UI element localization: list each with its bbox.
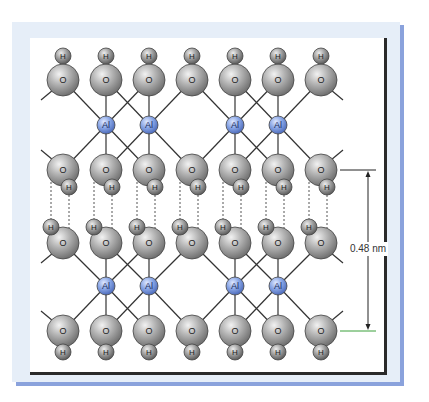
oxygen-atom-label: O [231,238,238,248]
hydrogen-atom-label: H [189,348,195,357]
oxygen-atom-label: O [102,238,109,248]
bond-line [331,150,343,160]
hydrogen-atom-label: H [109,183,115,192]
oxygen-atom: O [219,64,251,96]
oxygen-atom-label: O [231,326,238,336]
oxygen-atom: O [133,64,165,96]
hydrogen-atom: H [172,219,188,235]
hydrogen-atom: H [233,179,249,195]
hydrogen-atom: H [184,48,200,64]
bond-line [331,90,343,100]
hydrogen-atom: H [104,179,120,195]
aluminum-atom: Al [97,116,115,134]
oxygen-atom-label: O [145,75,152,85]
oxygen-atom-label: O [274,326,281,336]
hydrogen-atom: H [276,179,292,195]
arrow-up-icon [366,171,371,177]
hydrogen-atom-label: H [103,348,109,357]
oxygen-atom-label: O [102,326,109,336]
oxygen-atom-label: O [59,75,66,85]
oxygen-atom-label: O [102,165,109,175]
hydrogen-atom: H [141,48,157,64]
oxygen-atom-label: O [274,165,281,175]
hydrogen-atom: H [270,48,286,64]
hydrogen-atom-label: H [134,223,140,232]
hydrogen-atom-label: H [103,52,109,61]
hydrogen-atom: H [55,48,71,64]
hydrogen-atom: H [61,179,77,195]
aluminum-atom: Al [226,116,244,134]
hydrogen-atom-label: H [152,183,158,192]
oxygen-atom-label: O [188,165,195,175]
oxygen-atom: O [262,64,294,96]
hydrogen-atom: H [313,344,329,360]
oxygen-atom: O [90,64,122,96]
oxygen-atom: O [176,64,208,96]
aluminum-atom-label: Al [274,281,282,291]
oxygen-atom-label: O [59,326,66,336]
hydrogen-atom-label: H [324,183,330,192]
oxygen-atom-label: O [59,165,66,175]
hydrogen-atom: H [43,219,59,235]
hydrogen-atom: H [98,344,114,360]
hydrogen-atom-label: H [60,52,66,61]
oxygen-atom-label: O [188,75,195,85]
oxygen-atom-label: O [145,165,152,175]
oxygen-atom-label: O [145,326,152,336]
bond-line [41,311,53,321]
oxygen-atom-label: O [317,75,324,85]
oxygen-atom: O [90,315,122,347]
oxygen-atom-label: O [188,326,195,336]
aluminum-atom: Al [140,277,158,295]
oxygen-atom-label: O [231,165,238,175]
aluminum-atom-label: Al [231,120,239,130]
hydrogen-atom: H [258,219,274,235]
aluminum-atom: Al [269,277,287,295]
hydrogen-atom: H [141,344,157,360]
aluminum-atom: Al [226,277,244,295]
hydrogen-atom: H [190,179,206,195]
hydrogen-atom: H [301,219,317,235]
hydrogen-atom-label: H [275,52,281,61]
aluminum-atom-label: Al [231,281,239,291]
oxygen-atom-label: O [317,326,324,336]
crystal-structure-diagram: OHOHOHOHOHOHOHAlAlAlAlOHOHOHOHOHOHOHOHOH… [0,0,429,402]
aluminum-atom: Al [140,116,158,134]
bond-line [331,253,343,263]
hydrogen-atom-label: H [146,52,152,61]
hydrogen-atom: H [215,219,231,235]
hydrogen-atom: H [147,179,163,195]
oxygen-atom: O [262,315,294,347]
oxygen-atom: O [305,315,337,347]
hydrogen-atom-label: H [275,348,281,357]
hydrogen-atom-label: H [232,52,238,61]
hydrogen-atom: H [227,48,243,64]
bond-lines [41,80,343,331]
layer-spacing-label: 0.48 nm [350,243,386,254]
hydrogen-atom-label: H [318,52,324,61]
bond-line [41,253,53,263]
hydrogen-atom-label: H [318,348,324,357]
hydrogen-atom-label: H [177,223,183,232]
oxygen-atom-label: O [317,238,324,248]
arrow-down-icon [366,324,371,330]
aluminum-atom: Al [269,116,287,134]
aluminum-atom: Al [97,277,115,295]
hydrogen-atom: H [129,219,145,235]
aluminum-atom-label: Al [274,120,282,130]
hydrogen-atom: H [313,48,329,64]
hydrogen-atom: H [184,344,200,360]
oxygen-atom: O [133,315,165,347]
hydrogen-atom-label: H [60,348,66,357]
aluminum-atom-label: Al [145,120,153,130]
hydrogen-atom: H [319,179,335,195]
hydrogen-atom-label: H [281,183,287,192]
oxygen-atom-label: O [102,75,109,85]
aluminum-atom-label: Al [145,281,153,291]
hydrogen-atom-label: H [220,223,226,232]
bond-line [41,90,53,100]
hydrogen-atom: H [227,344,243,360]
hydrogen-atom-label: H [238,183,244,192]
hydrogen-atom-label: H [306,223,312,232]
hydrogen-atom-label: H [189,52,195,61]
